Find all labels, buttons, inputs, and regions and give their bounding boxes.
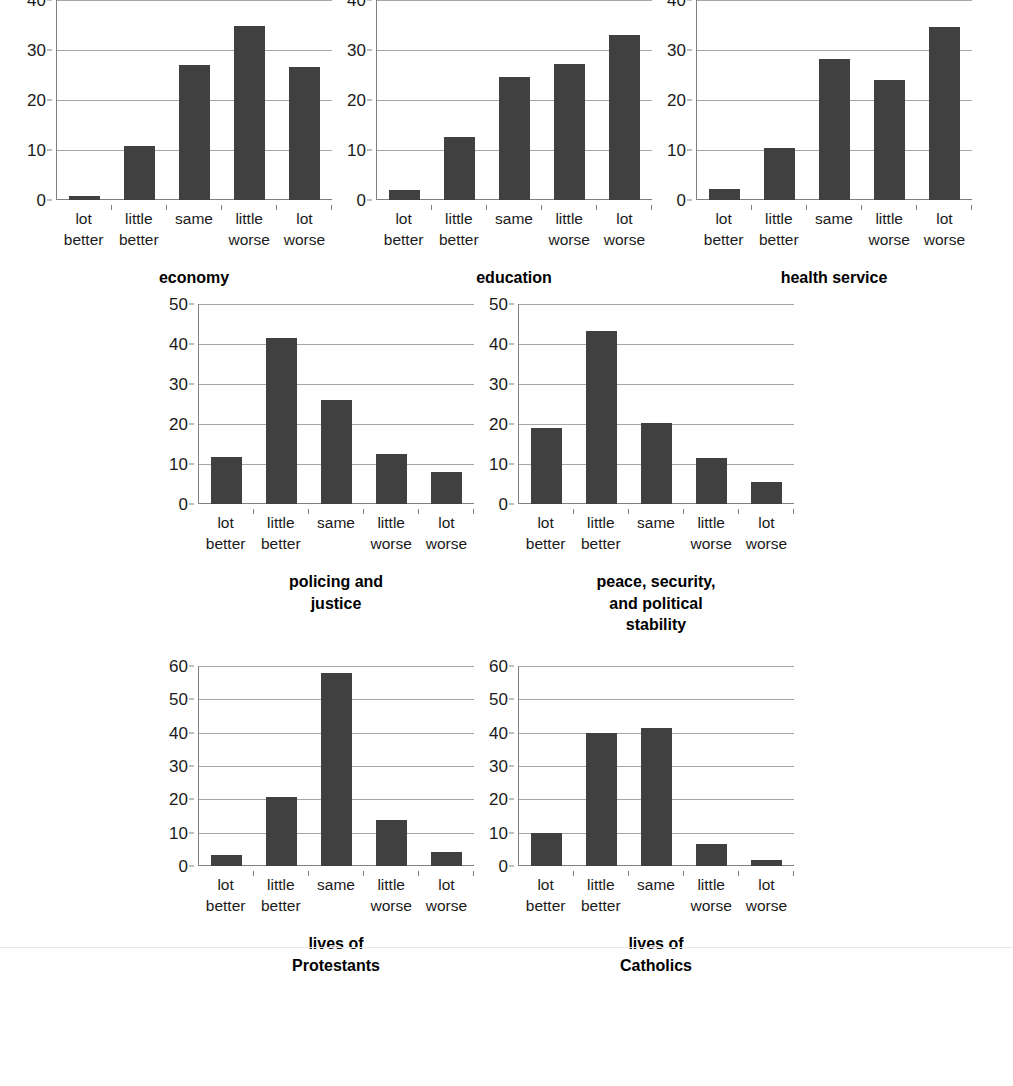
y-tick-label: 0 bbox=[499, 496, 508, 513]
y-tick-label: 0 bbox=[179, 496, 188, 513]
x-category-label: littlebetter bbox=[431, 209, 486, 251]
x-category-line bbox=[628, 534, 683, 555]
y-tick-label: 0 bbox=[37, 192, 46, 209]
y-tick-mark bbox=[189, 799, 194, 800]
x-category-label: lotworse bbox=[917, 209, 972, 251]
chart-title: peace, security,and politicalstability bbox=[480, 571, 800, 636]
bar[interactable] bbox=[124, 146, 156, 201]
bar[interactable] bbox=[874, 80, 906, 200]
x-category-line: worse bbox=[364, 896, 419, 917]
bar[interactable] bbox=[211, 457, 243, 504]
x-category-label: lotbetter bbox=[696, 209, 751, 251]
chart-title-line: health service bbox=[696, 267, 972, 289]
bar[interactable] bbox=[609, 35, 641, 200]
x-category-line bbox=[308, 534, 363, 555]
x-category-line: better bbox=[518, 896, 573, 917]
bar-slot bbox=[309, 304, 364, 504]
x-category-line: same bbox=[486, 209, 541, 230]
x-category-line bbox=[308, 896, 363, 917]
bar[interactable] bbox=[211, 855, 243, 866]
bar-slot bbox=[277, 0, 332, 200]
bar[interactable] bbox=[764, 148, 796, 200]
x-category-line: same bbox=[308, 513, 363, 534]
bar[interactable] bbox=[586, 733, 618, 866]
bar[interactable] bbox=[696, 458, 728, 504]
bar[interactable] bbox=[531, 833, 563, 866]
bar-series bbox=[57, 0, 332, 200]
y-tick-label: 10 bbox=[169, 456, 188, 473]
x-category-label: littlebetter bbox=[573, 875, 628, 917]
bar[interactable] bbox=[431, 472, 463, 504]
x-category-label: littlebetter bbox=[111, 209, 166, 251]
y-tick-mark bbox=[367, 200, 372, 201]
bar-slot bbox=[807, 0, 862, 200]
y-tick-label: 30 bbox=[169, 758, 188, 775]
bar[interactable] bbox=[389, 190, 421, 200]
bar[interactable] bbox=[751, 860, 783, 866]
y-axis: 0102030405060 bbox=[160, 666, 194, 866]
bar[interactable] bbox=[266, 797, 298, 866]
bar[interactable] bbox=[554, 64, 586, 201]
bar[interactable] bbox=[751, 482, 783, 504]
chart-title-line: economy bbox=[56, 267, 332, 289]
x-category-line: better bbox=[253, 896, 308, 917]
x-category-label: littleworse bbox=[862, 209, 917, 251]
bar[interactable] bbox=[586, 331, 618, 504]
bar-slot bbox=[697, 0, 752, 200]
bar[interactable] bbox=[531, 428, 563, 504]
bar[interactable] bbox=[376, 454, 408, 504]
bar-slot bbox=[542, 0, 597, 200]
y-tick-label: 50 bbox=[489, 296, 508, 313]
bar[interactable] bbox=[709, 189, 741, 201]
chart-row-bottom: 0102030405060lotbetterlittlebettersame l… bbox=[0, 666, 1013, 976]
y-tick-mark bbox=[687, 200, 692, 201]
bar[interactable] bbox=[234, 26, 266, 201]
y-tick-label: 40 bbox=[169, 336, 188, 353]
bar[interactable] bbox=[321, 400, 353, 504]
bar[interactable] bbox=[289, 67, 321, 200]
bar[interactable] bbox=[69, 196, 101, 201]
chart-2: 010203040lotbetterlittlebettersame littl… bbox=[338, 0, 658, 288]
x-category-line bbox=[806, 230, 861, 251]
x-category-line: worse bbox=[419, 534, 474, 555]
y-tick-mark bbox=[47, 100, 52, 101]
y-tick-label: 10 bbox=[489, 824, 508, 841]
chart-title-line: peace, security, bbox=[518, 571, 794, 593]
x-category-line: little bbox=[862, 209, 917, 230]
chart-grid: 010203040lotbetterlittlebettersame littl… bbox=[0, 0, 1013, 976]
page-rule bbox=[0, 947, 1013, 948]
y-tick-mark bbox=[367, 50, 372, 51]
bar[interactable] bbox=[641, 728, 673, 866]
bar[interactable] bbox=[376, 820, 408, 866]
bar[interactable] bbox=[641, 423, 673, 504]
y-axis: 01020304050 bbox=[480, 304, 514, 504]
plot-canvas bbox=[56, 0, 332, 200]
plot-canvas bbox=[198, 304, 474, 504]
x-category-label: lotworse bbox=[597, 209, 652, 251]
y-tick-mark bbox=[509, 464, 514, 465]
x-category-label: lotbetter bbox=[518, 513, 573, 555]
bar[interactable] bbox=[499, 77, 531, 201]
x-category-label: littleworse bbox=[364, 875, 419, 917]
plot-area: 010203040 bbox=[376, 0, 652, 200]
y-tick-mark bbox=[189, 304, 194, 305]
x-category-line: better bbox=[751, 230, 806, 251]
bar[interactable] bbox=[266, 338, 298, 504]
bar[interactable] bbox=[431, 852, 463, 866]
x-category-label: lotbetter bbox=[56, 209, 111, 251]
bar[interactable] bbox=[179, 65, 211, 200]
x-category-label: same bbox=[308, 875, 363, 917]
x-category-label: littleworse bbox=[542, 209, 597, 251]
x-category-line: little bbox=[751, 209, 806, 230]
bar-slot bbox=[364, 304, 419, 504]
bar[interactable] bbox=[321, 673, 353, 866]
bar[interactable] bbox=[696, 844, 728, 866]
x-category-line: worse bbox=[739, 534, 794, 555]
x-category-line: little bbox=[431, 209, 486, 230]
chart-title: lives ofCatholics bbox=[480, 933, 800, 976]
bar[interactable] bbox=[444, 137, 476, 200]
x-category-line: better bbox=[518, 534, 573, 555]
bar[interactable] bbox=[929, 27, 961, 201]
bar-slot bbox=[199, 666, 254, 866]
bar[interactable] bbox=[819, 59, 851, 200]
